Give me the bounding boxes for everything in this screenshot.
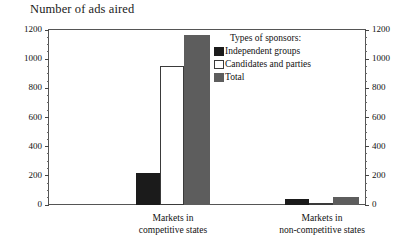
y-axis-minor-tick-left <box>47 102 49 103</box>
y-axis-minor-tick-left <box>47 51 49 52</box>
y-axis-minor-tick-right <box>365 102 367 103</box>
y-axis-tick-right <box>365 117 369 118</box>
y-axis-minor-tick-left <box>47 44 49 45</box>
legend-title: Types of sponsors: <box>214 33 311 43</box>
y-axis-label-right-0: 0 <box>372 200 377 209</box>
y-axis-minor-tick-left <box>47 110 49 111</box>
y-axis-tick-right <box>365 30 369 31</box>
y-axis-minor-tick-right <box>365 51 367 52</box>
y-axis-minor-tick-right <box>365 132 367 133</box>
y-axis-minor-tick-right <box>365 44 367 45</box>
y-axis-tick-right <box>365 59 369 60</box>
legend-item-total: Total <box>214 71 311 84</box>
y-axis-minor-tick-right <box>365 124 367 125</box>
y-axis-label-right-600: 600 <box>372 113 386 122</box>
y-axis-tick-right <box>365 88 369 89</box>
y-axis-minor-tick-left <box>47 66 49 67</box>
y-axis-minor-tick-left <box>47 37 49 38</box>
x-axis-group-label-1-line2: competitive states <box>93 225 253 237</box>
y-axis-minor-tick-left <box>47 197 49 198</box>
y-axis-label-right-1000: 1000 <box>372 54 390 63</box>
y-axis-tick-left <box>45 175 49 176</box>
x-axis-group-label-2-line2: non-competitive states <box>242 225 402 237</box>
y-axis-minor-tick-right <box>365 190 367 191</box>
y-axis-minor-tick-right <box>365 81 367 82</box>
page-title: Number of ads aired <box>30 2 134 17</box>
y-axis-minor-tick-right <box>365 183 367 184</box>
legend-swatch-candidates-and-parties <box>214 60 224 69</box>
y-axis-minor-tick-right <box>365 153 367 154</box>
y-axis-label-right-1200: 1200 <box>372 25 390 34</box>
chart-root: Number of ads aired Markets incompetitiv… <box>0 0 412 249</box>
y-axis-minor-tick-left <box>47 183 49 184</box>
chart-legend: Types of sponsors: Independent groups Ca… <box>214 33 311 84</box>
y-axis-minor-tick-left <box>47 190 49 191</box>
y-axis-minor-tick-right <box>365 37 367 38</box>
bar-total-group1 <box>184 35 210 205</box>
bar-candidates-group2 <box>309 203 333 205</box>
y-axis-tick-left <box>45 146 49 147</box>
bar-independent-group2 <box>285 199 309 205</box>
y-axis-minor-tick-right <box>365 73 367 74</box>
legend-item-independent-groups: Independent groups <box>214 45 311 58</box>
y-axis-minor-tick-right <box>365 110 367 111</box>
y-axis-label-right-400: 400 <box>372 142 386 151</box>
y-axis-tick-left <box>45 205 49 206</box>
y-axis-minor-tick-left <box>47 168 49 169</box>
y-axis-label-left-1000: 1000 <box>4 54 42 63</box>
legend-label-independent-groups: Independent groups <box>225 47 300 57</box>
bar-independent-group1 <box>136 173 160 205</box>
y-axis-minor-tick-left <box>47 73 49 74</box>
y-axis-tick-left <box>45 59 49 60</box>
x-axis-group-label-1-line1: Markets in <box>93 213 253 225</box>
y-axis-minor-tick-right <box>365 161 367 162</box>
y-axis-tick-right <box>365 146 369 147</box>
y-axis-label-left-200: 200 <box>4 171 42 180</box>
y-axis-minor-tick-left <box>47 153 49 154</box>
legend-label-total: Total <box>225 73 244 83</box>
y-axis-minor-tick-right <box>365 139 367 140</box>
y-axis-minor-tick-left <box>47 81 49 82</box>
y-axis-minor-tick-left <box>47 124 49 125</box>
bar-candidates-group1 <box>160 66 184 205</box>
y-axis-label-left-1200: 1200 <box>4 25 42 34</box>
x-axis-group-label-1: Markets incompetitive states <box>93 213 253 236</box>
y-axis-minor-tick-right <box>365 95 367 96</box>
legend-swatch-total <box>214 73 224 82</box>
y-axis-tick-left <box>45 88 49 89</box>
bar-total-group2 <box>333 197 359 205</box>
y-axis-label-left-800: 800 <box>4 83 42 92</box>
y-axis-minor-tick-right <box>365 197 367 198</box>
y-axis-tick-left <box>45 117 49 118</box>
x-axis-group-label-2: Markets innon-competitive states <box>242 213 402 236</box>
y-axis-label-right-800: 800 <box>372 83 386 92</box>
y-axis-label-right-200: 200 <box>372 171 386 180</box>
y-axis-label-left-0: 0 <box>4 200 42 209</box>
y-axis-minor-tick-left <box>47 132 49 133</box>
plot-area <box>49 30 365 205</box>
y-axis-tick-right <box>365 205 369 206</box>
y-axis-minor-tick-right <box>365 168 367 169</box>
y-axis-tick-left <box>45 30 49 31</box>
y-axis-minor-tick-right <box>365 66 367 67</box>
x-axis-group-label-2-line1: Markets in <box>242 213 402 225</box>
y-axis-minor-tick-left <box>47 139 49 140</box>
legend-swatch-independent-groups <box>214 47 224 56</box>
legend-label-candidates-and-parties: Candidates and parties <box>225 60 311 70</box>
y-axis-minor-tick-left <box>47 161 49 162</box>
y-axis-minor-tick-left <box>47 95 49 96</box>
legend-item-candidates-and-parties: Candidates and parties <box>214 58 311 71</box>
y-axis-tick-right <box>365 175 369 176</box>
y-axis-label-left-400: 400 <box>4 142 42 151</box>
y-axis-label-left-600: 600 <box>4 113 42 122</box>
